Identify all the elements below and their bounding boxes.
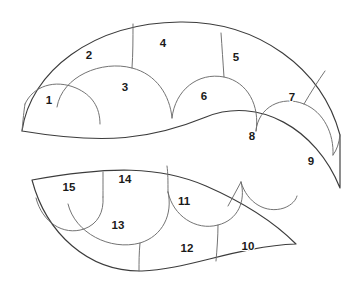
- cell-label-11: 11: [178, 195, 191, 207]
- upper-lobe-outline: [22, 22, 340, 188]
- cell-label-15: 15: [63, 181, 76, 193]
- cell-label-5: 5: [233, 51, 240, 63]
- cell-label-14: 14: [119, 173, 132, 185]
- cell-label-4: 4: [160, 37, 167, 49]
- cell-label-9: 9: [308, 155, 314, 167]
- cell-label-10: 10: [242, 240, 255, 252]
- figure-root: 1 2 3 4 5 6 7 8 9 10 11 12 13 14 15: [0, 0, 359, 295]
- cell-label-8: 8: [249, 130, 256, 142]
- cell-label-3: 3: [122, 81, 128, 93]
- cell-label-1: 1: [46, 94, 53, 106]
- fish-scale-tiling-diagram: 1 2 3 4 5 6 7 8 9 10 11 12 13 14 15: [0, 0, 359, 295]
- cell-label-12: 12: [181, 242, 194, 254]
- cell-label-2: 2: [86, 49, 92, 61]
- cell-label-6: 6: [201, 90, 207, 102]
- cell-label-13: 13: [112, 219, 125, 231]
- scale-arc-l3: [241, 182, 297, 210]
- cell-label-7: 7: [289, 91, 295, 103]
